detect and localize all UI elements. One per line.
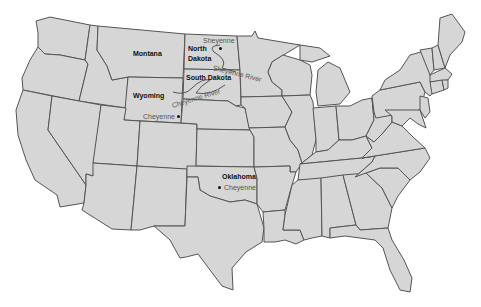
sheyenne-town-marker	[219, 47, 222, 50]
cheyenne-oklahoma-marker	[218, 186, 221, 189]
state-colorado	[137, 121, 197, 170]
state-iowa	[241, 96, 292, 128]
state-new-mexico	[131, 166, 187, 230]
label-cheyenne-wyoming: Cheyenne	[143, 113, 175, 120]
label-north-dakota-line1: North	[188, 45, 207, 52]
label-south-dakota: South Dakota	[186, 74, 231, 81]
state-connecticut	[430, 80, 444, 94]
us-map	[0, 0, 481, 307]
state-maine	[438, 14, 465, 68]
label-north-dakota-line2: Dakota	[188, 55, 211, 62]
state-florida	[330, 225, 412, 292]
label-montana: Montana	[133, 50, 162, 57]
state-kansas	[196, 129, 254, 167]
label-sheyenne-town: Sheyenne	[203, 37, 235, 44]
label-oklahoma: Oklahoma	[222, 173, 256, 180]
label-wyoming: Wyoming	[133, 92, 164, 99]
label-cheyenne-oklahoma: Cheyenne	[224, 184, 256, 191]
cheyenne-wyoming-marker	[177, 115, 180, 118]
